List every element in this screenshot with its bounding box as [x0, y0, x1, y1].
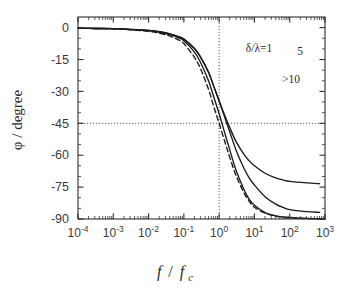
curve-label-gt-10: >10: [282, 73, 300, 85]
x-tick-mantissa: 10: [103, 226, 117, 240]
x-axis-title-f: f: [157, 263, 164, 281]
x-tick-exponent: 0: [223, 224, 228, 234]
x-tick-exponent: -1: [187, 224, 195, 234]
y-tick-label: -60: [51, 148, 69, 162]
x-tick-mantissa: 10: [245, 226, 259, 240]
x-tick-exponent: -4: [81, 224, 89, 234]
y-tick-label: 0: [62, 21, 69, 35]
x-tick-mantissa: 10: [173, 226, 187, 240]
x-tick-exponent: -2: [151, 224, 159, 234]
curve-label-5: 5: [297, 45, 303, 57]
x-tick-mantissa: 10: [138, 226, 152, 240]
phase-response-chart: 10-410-310-210-1100101102103 -90-75-60-4…: [0, 0, 350, 298]
x-tick-mantissa: 10: [210, 226, 224, 240]
x-tick-exponent: -3: [116, 224, 124, 234]
y-tick-label: -90: [51, 212, 69, 226]
y-tick-label: -30: [51, 85, 69, 99]
x-tick-exponent: 2: [294, 224, 299, 234]
curve-label-delta-lambda-1: δ/λ=1: [246, 42, 273, 54]
x-axis-title-subscript-c: c: [188, 271, 193, 283]
x-tick-exponent: 1: [259, 224, 264, 234]
x-tick-mantissa: 10: [281, 226, 295, 240]
x-tick-mantissa: 10: [68, 226, 82, 240]
y-axis-title: φ / degree: [9, 90, 25, 151]
x-tick-exponent: 3: [329, 224, 334, 234]
x-tick-mantissa: 10: [316, 226, 330, 240]
x-axis-title-fc: f: [180, 263, 187, 281]
x-axis-title-slash: /: [168, 263, 173, 280]
y-tick-label: -75: [51, 180, 69, 194]
figure-container: 10-410-310-210-1100101102103 -90-75-60-4…: [0, 0, 350, 298]
y-tick-label: -15: [51, 53, 69, 67]
y-tick-label: -45: [51, 117, 69, 131]
